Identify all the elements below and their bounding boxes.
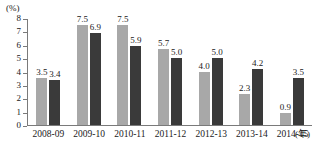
bar-value-label: 0.9 bbox=[280, 102, 291, 112]
y-tick-label: 5 bbox=[17, 53, 22, 64]
bar-value-label: 6.9 bbox=[90, 22, 101, 32]
bar-value-label: 5.0 bbox=[171, 47, 182, 57]
bar-group: 3.53.4 bbox=[28, 19, 69, 125]
bar-value-label: 5.9 bbox=[130, 35, 141, 45]
y-tick-label: 0 bbox=[17, 120, 22, 131]
bar-value-label: 3.5 bbox=[293, 67, 304, 77]
y-tick-label: 2 bbox=[17, 93, 22, 104]
y-tick-label: 7 bbox=[17, 26, 22, 37]
y-tick-mark bbox=[23, 32, 27, 33]
bar[interactable]: 5.9 bbox=[130, 46, 141, 125]
y-tick-label: 8 bbox=[17, 13, 22, 24]
y-tick-mark bbox=[23, 86, 27, 87]
y-tick-mark bbox=[23, 19, 27, 20]
bar[interactable]: 2.3 bbox=[239, 94, 250, 125]
y-axis-unit-label: (%) bbox=[6, 3, 20, 13]
bar-value-label: 3.5 bbox=[36, 67, 47, 77]
bar-group: 4.05.0 bbox=[190, 19, 231, 125]
y-tick-mark bbox=[23, 113, 27, 114]
y-tick-label: 4 bbox=[17, 67, 22, 78]
x-axis-unit-label: (年) bbox=[295, 128, 310, 140]
y-tick-label: 6 bbox=[17, 40, 22, 51]
x-axis-line bbox=[27, 125, 312, 126]
bar-value-label: 5.7 bbox=[158, 38, 169, 48]
bar[interactable]: 7.5 bbox=[77, 25, 88, 125]
y-tick-label: 1 bbox=[17, 107, 22, 118]
x-axis-label: 2008-09 bbox=[28, 128, 69, 140]
y-tick-mark bbox=[23, 73, 27, 74]
bar-group: 5.75.0 bbox=[150, 19, 191, 125]
bar[interactable]: 4.2 bbox=[252, 69, 263, 125]
y-tick-mark bbox=[23, 99, 27, 100]
bar[interactable]: 0.9 bbox=[280, 113, 291, 125]
y-tick-mark bbox=[23, 126, 27, 127]
plot-area: 012345678 3.53.47.56.97.55.95.75.04.05.0… bbox=[27, 19, 312, 126]
bar-chart: (%) 012345678 3.53.47.56.97.55.95.75.04.… bbox=[0, 0, 321, 151]
x-axis-label: 2009-10 bbox=[69, 128, 110, 140]
x-axis-label: 2010-11 bbox=[109, 128, 150, 140]
bar[interactable]: 3.5 bbox=[293, 78, 304, 125]
bar-groups: 3.53.47.56.97.55.95.75.04.05.02.34.20.93… bbox=[28, 19, 312, 125]
bar-value-label: 2.3 bbox=[239, 83, 250, 93]
bar[interactable]: 5.7 bbox=[158, 49, 169, 125]
y-tick-mark bbox=[23, 59, 27, 60]
bar-value-label: 4.0 bbox=[198, 61, 209, 71]
bar[interactable]: 6.9 bbox=[90, 33, 101, 125]
x-axis-labels: 2008-092009-102010-112011-122012-132013-… bbox=[28, 128, 313, 140]
bar[interactable]: 3.5 bbox=[36, 78, 47, 125]
bar[interactable]: 5.0 bbox=[171, 58, 182, 125]
x-axis-label: 2012-13 bbox=[191, 128, 232, 140]
bar[interactable]: 7.5 bbox=[117, 25, 128, 125]
bar-group: 7.56.9 bbox=[69, 19, 110, 125]
bar-value-label: 3.4 bbox=[49, 69, 60, 79]
y-tick-label: 3 bbox=[17, 80, 22, 91]
bar[interactable]: 4.0 bbox=[199, 72, 210, 126]
bar-group: 0.93.5 bbox=[271, 19, 312, 125]
bar[interactable]: 5.0 bbox=[212, 58, 223, 125]
bar[interactable]: 3.4 bbox=[49, 80, 60, 125]
x-axis-label: 2011-12 bbox=[150, 128, 191, 140]
bar-value-label: 5.0 bbox=[211, 47, 222, 57]
bar-group: 7.55.9 bbox=[109, 19, 150, 125]
bar-value-label: 7.5 bbox=[77, 14, 88, 24]
x-axis-label: 2013-14 bbox=[232, 128, 273, 140]
y-tick-mark bbox=[23, 46, 27, 47]
bar-value-label: 4.2 bbox=[252, 58, 263, 68]
bar-value-label: 7.5 bbox=[117, 14, 128, 24]
bar-group: 2.34.2 bbox=[231, 19, 272, 125]
